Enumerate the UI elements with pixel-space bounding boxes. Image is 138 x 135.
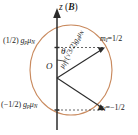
lower-spin-state-label: mI=−1/2 (98, 104, 125, 113)
nuclear-magnetic-moment-diagram: z (B) (1/2) gpμN (−1/2) gpμN mI=1/2 mI=−… (0, 0, 138, 135)
upper-m-value: =1/2 (108, 34, 123, 43)
upper-mu-subscript: N (31, 39, 35, 45)
lower-moment-vector (57, 78, 101, 107)
lower-coefficient: (−1/2) (1, 100, 21, 109)
diagram-canvas (0, 0, 138, 135)
origin-label: O (46, 62, 53, 71)
lower-m-value: =−1/2 (106, 103, 125, 112)
upper-coefficient: (1/2) (3, 36, 19, 45)
upper-moment-vector-arrowhead (98, 47, 105, 53)
axis-paren-close: ) (75, 2, 78, 12)
lower-projection-label: (−1/2) gpμN (1, 101, 37, 110)
upper-projection-label: (1/2) gpμN (3, 37, 35, 46)
lower-mu-subscript: N (34, 103, 38, 109)
upper-spin-state-label: mI=1/2 (100, 35, 122, 44)
z-axis-label: z (B) (59, 3, 78, 13)
